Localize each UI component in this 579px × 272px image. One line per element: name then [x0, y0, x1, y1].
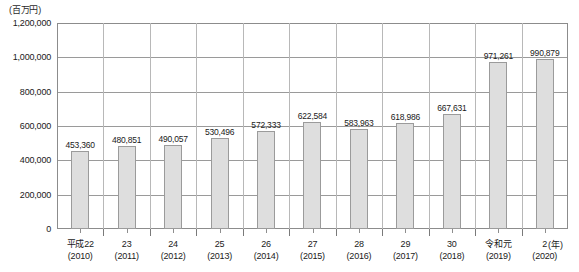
bar-value-label: 667,631: [437, 103, 466, 113]
bar-value-label: 971,261: [484, 51, 513, 61]
x-axis-category-label: 27(2015): [289, 238, 335, 262]
y-axis-tick-label: 1,200,000: [13, 18, 51, 28]
x-axis-category-label: 29(2017): [382, 238, 428, 262]
x-axis-minor-tick: [173, 229, 174, 233]
y-axis-tick-label: 1,000,000: [13, 52, 51, 62]
y-axis-tick-label: 600,000: [20, 121, 51, 131]
x-axis-year-label: (2013): [196, 250, 242, 262]
x-axis-year-label: (2016): [336, 250, 382, 262]
x-axis-major-tick: [289, 229, 290, 236]
bar-group: 971,261: [475, 23, 521, 229]
bar-value-label: 530,496: [205, 127, 234, 137]
x-axis-year-label: (2017): [382, 250, 428, 262]
bar: [71, 151, 89, 229]
x-axis-era-label: 23: [103, 238, 149, 250]
x-axis-era-label: 27: [289, 238, 335, 250]
x-axis-major-tick: [150, 229, 151, 236]
x-axis-major-tick: [475, 229, 476, 236]
y-axis-tick-labels: 0200,000400,000600,000800,0001,000,0001,…: [0, 0, 57, 272]
bar: [164, 145, 182, 229]
bar: [489, 62, 507, 229]
y-axis-tick-label: 0: [46, 224, 51, 234]
x-axis-category-label: 26(2014): [243, 238, 289, 262]
x-axis-minor-tick: [545, 229, 546, 233]
bar-group: 453,360: [57, 23, 103, 229]
bar: [118, 146, 136, 229]
bar-group: 490,057: [150, 23, 196, 229]
x-axis-era-label: 令和元: [475, 238, 521, 250]
x-axis-year-label: (2019): [475, 250, 521, 262]
bar-value-label: 490,057: [158, 134, 187, 144]
bars-layer: 453,360480,851490,057530,496572,333622,5…: [57, 23, 568, 229]
x-axis-era-label: 平成22: [57, 238, 103, 250]
x-axis-major-tick: [103, 229, 104, 236]
bar-group: 667,631: [429, 23, 475, 229]
x-axis-major-tick: [336, 229, 337, 236]
x-axis-minor-tick: [266, 229, 267, 233]
x-axis-category-label: 30(2018): [429, 238, 475, 262]
bar: [211, 138, 229, 229]
x-axis-category-label: 25(2013): [196, 238, 242, 262]
bar-group: 530,496: [196, 23, 242, 229]
bar-value-label: 583,963: [344, 118, 373, 128]
bar-group: 480,851: [103, 23, 149, 229]
y-axis-tick-label: 400,000: [20, 155, 51, 165]
x-axis-year-label: (2015): [289, 250, 335, 262]
bar-group: 572,333: [243, 23, 289, 229]
x-axis-era-label: 28: [336, 238, 382, 250]
bar-group: 618,986: [382, 23, 428, 229]
bar: [350, 129, 368, 229]
x-axis-major-tick: [382, 229, 383, 236]
x-axis-minor-tick: [452, 229, 453, 233]
bar-value-label: 618,986: [391, 112, 420, 122]
x-axis-unit-label: (年): [548, 238, 563, 251]
x-axis-major-tick: [429, 229, 430, 236]
y-axis-tick-label: 800,000: [20, 87, 51, 97]
x-axis-category-label: 平成22(2010): [57, 238, 103, 262]
x-axis-era-label: 24: [150, 238, 196, 250]
x-axis-minor-tick: [127, 229, 128, 233]
bar-group: 990,879: [522, 23, 568, 229]
x-axis-ticks: [57, 229, 568, 237]
x-axis-major-tick: [522, 229, 523, 236]
bar-value-label: 622,584: [298, 111, 327, 121]
x-axis-year-label: (2010): [57, 250, 103, 262]
x-axis-minor-tick: [359, 229, 360, 233]
x-axis-category-label: 28(2016): [336, 238, 382, 262]
bar: [303, 122, 321, 229]
x-axis-era-label: 29: [382, 238, 428, 250]
x-axis-year-label: (2020): [522, 250, 568, 262]
bar-value-label: 453,360: [66, 140, 95, 150]
bar-chart: (百万円) 0200,000400,000600,000800,0001,000…: [0, 0, 579, 272]
y-axis-tick-label: 200,000: [20, 190, 51, 200]
x-axis-minor-tick: [80, 229, 81, 233]
x-axis-category-labels: 平成22(2010)23(2011)24(2012)25(2013)26(201…: [57, 238, 568, 268]
x-axis-year-label: (2018): [429, 250, 475, 262]
x-axis-major-tick: [243, 229, 244, 236]
x-axis-category-label: 令和元(2019): [475, 238, 521, 262]
x-axis-year-label: (2011): [103, 250, 149, 262]
x-axis-minor-tick: [405, 229, 406, 233]
bar: [396, 123, 414, 229]
x-axis-era-label: 30: [429, 238, 475, 250]
x-axis-year-label: (2012): [150, 250, 196, 262]
bar-value-label: 572,333: [251, 120, 280, 130]
bar-group: 583,963: [336, 23, 382, 229]
x-axis-era-label: 25: [196, 238, 242, 250]
x-axis-category-label: 24(2012): [150, 238, 196, 262]
bar-value-label: 990,879: [530, 48, 559, 58]
bar: [257, 131, 275, 229]
x-axis-minor-tick: [313, 229, 314, 233]
x-axis-category-label: 23(2011): [103, 238, 149, 262]
x-axis-minor-tick: [498, 229, 499, 233]
x-axis-year-label: (2014): [243, 250, 289, 262]
x-axis-major-tick: [196, 229, 197, 236]
bar-group: 622,584: [289, 23, 335, 229]
bar: [536, 59, 554, 229]
bar-value-label: 480,851: [112, 135, 141, 145]
bar: [443, 114, 461, 229]
x-axis-minor-tick: [220, 229, 221, 233]
x-axis-era-label: 26: [243, 238, 289, 250]
